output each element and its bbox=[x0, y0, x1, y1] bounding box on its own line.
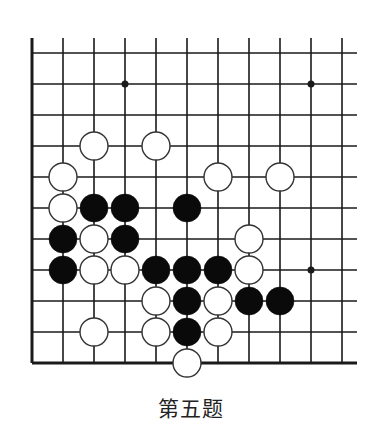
white-stone-icon bbox=[266, 163, 294, 191]
black-stone-icon bbox=[80, 194, 108, 222]
white-stone-icon bbox=[235, 256, 263, 284]
black-stone-icon bbox=[49, 256, 77, 284]
black-stone-icon bbox=[173, 194, 201, 222]
white-stone-icon bbox=[80, 225, 108, 253]
white-stone-icon bbox=[142, 287, 170, 315]
white-stone-icon bbox=[173, 349, 201, 377]
white-stone-icon bbox=[49, 163, 77, 191]
go-board bbox=[0, 0, 381, 385]
white-stone-icon bbox=[111, 256, 139, 284]
black-stone-icon bbox=[111, 225, 139, 253]
black-stone-icon bbox=[266, 287, 294, 315]
white-stone-icon bbox=[49, 194, 77, 222]
white-stone-icon bbox=[235, 225, 263, 253]
stones bbox=[49, 132, 294, 377]
star-point-icon bbox=[122, 81, 129, 88]
white-stone-icon bbox=[142, 318, 170, 346]
go-board-diagram bbox=[0, 0, 381, 385]
star-point-icon bbox=[308, 81, 315, 88]
white-stone-icon bbox=[80, 132, 108, 160]
black-stone-icon bbox=[111, 194, 139, 222]
black-stone-icon bbox=[49, 225, 77, 253]
black-stone-icon bbox=[173, 287, 201, 315]
black-stone-icon bbox=[204, 256, 232, 284]
star-point-icon bbox=[308, 267, 315, 274]
white-stone-icon bbox=[80, 318, 108, 346]
white-stone-icon bbox=[142, 132, 170, 160]
black-stone-icon bbox=[173, 318, 201, 346]
problem-caption: 第五题 bbox=[0, 392, 381, 422]
black-stone-icon bbox=[142, 256, 170, 284]
white-stone-icon bbox=[204, 163, 232, 191]
black-stone-icon bbox=[235, 287, 263, 315]
white-stone-icon bbox=[204, 318, 232, 346]
white-stone-icon bbox=[204, 287, 232, 315]
black-stone-icon bbox=[173, 256, 201, 284]
white-stone-icon bbox=[80, 256, 108, 284]
